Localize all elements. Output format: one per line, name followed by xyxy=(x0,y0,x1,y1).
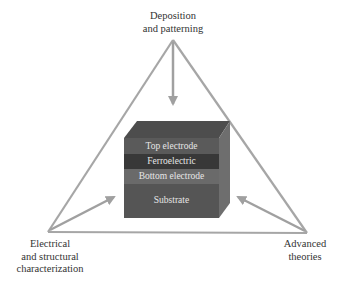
layer-label-top-electrode: Top electrode xyxy=(124,140,219,152)
vertex-label-top: Deposition and patterning xyxy=(123,10,223,35)
layer-label-substrate: Substrate xyxy=(124,194,219,206)
layer-label-ferroelectric: Ferroelectric xyxy=(124,155,219,167)
vertex-label-right: Advanced theories xyxy=(265,238,338,263)
cube-top-face xyxy=(124,121,230,138)
cube-side-face xyxy=(219,121,230,218)
vertex-label-left: Electrical and structural characterizati… xyxy=(0,238,100,276)
layer-label-bottom-electrode: Bottom electrode xyxy=(124,170,219,182)
